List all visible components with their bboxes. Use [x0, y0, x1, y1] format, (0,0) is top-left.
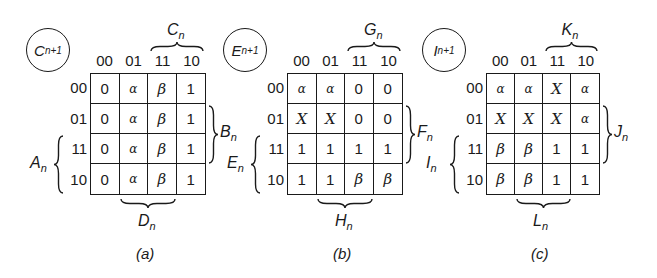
variable-subscript: n	[542, 220, 548, 232]
row-header: 11	[457, 140, 483, 157]
variable-subscript: n	[430, 162, 436, 174]
map-cell: X	[543, 74, 571, 104]
column-header: 10	[571, 52, 600, 69]
column-header: 01	[514, 52, 543, 69]
map-cell: 1	[543, 164, 571, 194]
left-brace-label: In	[426, 154, 437, 174]
figure-caption: (c)	[531, 245, 549, 262]
map-cell: β	[487, 164, 515, 194]
map-cell: α	[487, 74, 515, 104]
column-header: 11	[543, 52, 572, 69]
variable-name: J	[614, 123, 622, 140]
map-cell: α	[571, 104, 599, 134]
row-header: 01	[457, 110, 483, 127]
row-header: 00	[457, 79, 483, 96]
variable-subscript: n	[622, 131, 628, 143]
output-variable-circle: In+1	[422, 28, 466, 72]
bottom-brace	[517, 199, 570, 208]
row-header: 10	[457, 171, 483, 188]
top-brace	[546, 42, 597, 51]
right-brace	[603, 106, 612, 163]
right-brace-label: Jn	[614, 123, 628, 143]
map-cell: X	[515, 104, 543, 134]
map-cell: 1	[571, 134, 599, 164]
top-brace-label: Kn	[562, 21, 579, 41]
map-cell: 1	[571, 164, 599, 194]
map-cell: α	[571, 74, 599, 104]
map-cell: α	[515, 74, 543, 104]
karnaugh-grid: ααXαXXXαββ11ββ11	[486, 73, 600, 195]
map-cell: X	[487, 104, 515, 134]
map-cell: β	[487, 134, 515, 164]
karnaugh-map-c: In+10001111000011110ααXαXXXαββ11ββ11KnJn…	[0, 0, 657, 278]
left-brace	[450, 136, 459, 193]
map-cell: X	[543, 104, 571, 134]
variable-name: L	[533, 212, 542, 229]
bottom-brace-label: Ln	[533, 212, 548, 232]
map-cell: β	[515, 134, 543, 164]
variable-subscript: n	[572, 29, 578, 41]
column-header: 00	[486, 52, 515, 69]
map-cell: 1	[543, 134, 571, 164]
variable-name: K	[562, 21, 573, 38]
variable-subscript: n+1	[438, 45, 455, 56]
map-cell: β	[515, 164, 543, 194]
